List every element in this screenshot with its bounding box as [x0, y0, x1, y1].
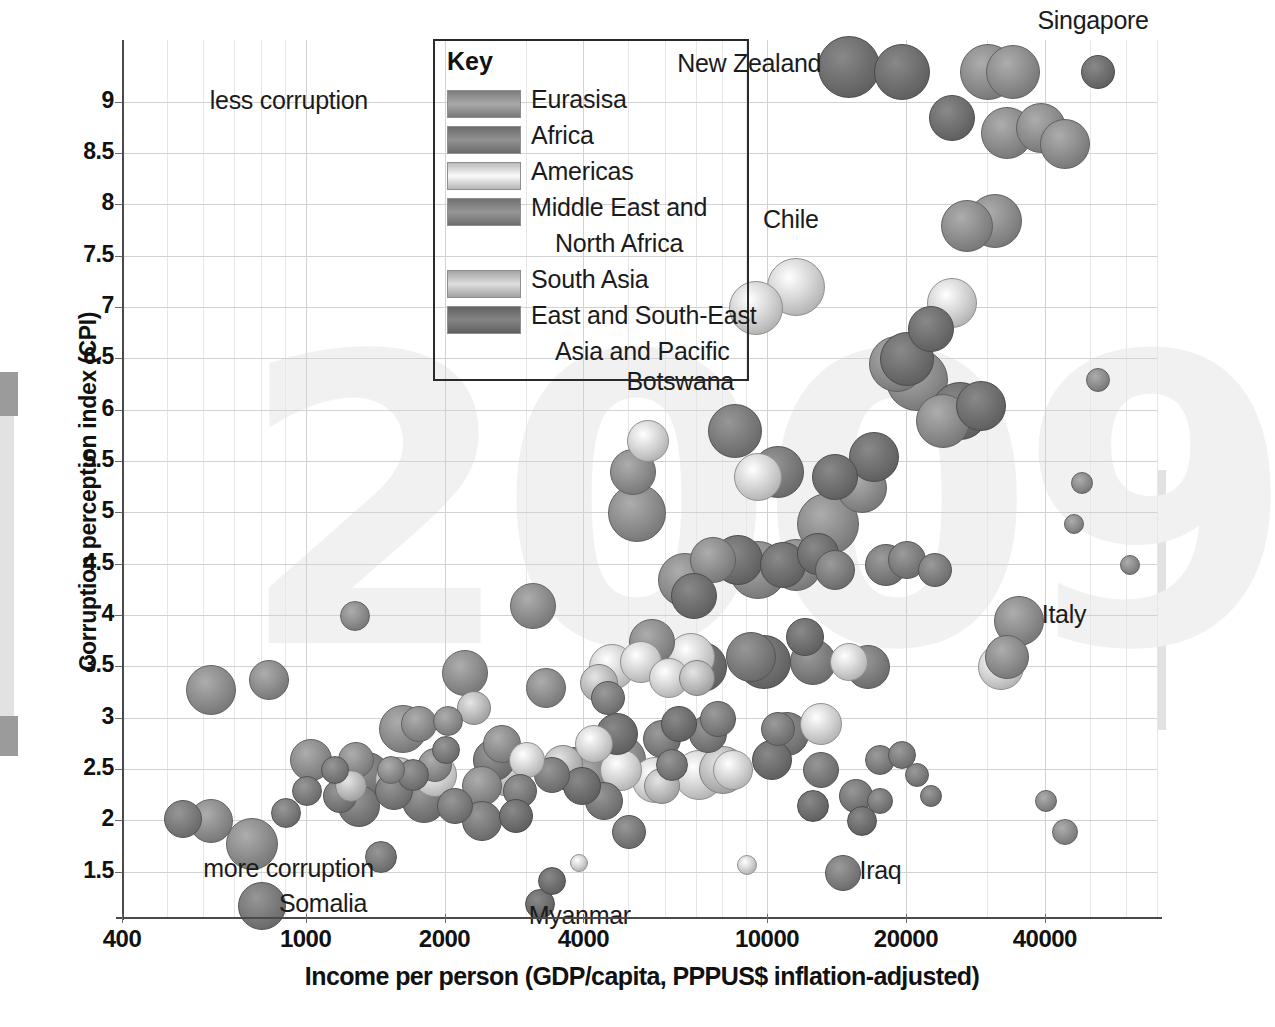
x-tick	[122, 914, 123, 923]
y-tick-label: 1.5	[83, 857, 114, 884]
annotation-more-corruption: more corruption	[203, 854, 374, 883]
x-tick	[767, 914, 768, 923]
y-tick-label: 8	[102, 189, 114, 216]
bubble-americas	[570, 854, 588, 872]
legend-label-continued: North Africa	[555, 229, 683, 258]
bubble-americas	[713, 750, 753, 790]
legend-label: South Asia	[531, 265, 649, 294]
gridline-vertical	[906, 40, 907, 918]
y-tick-label: 2	[102, 805, 114, 832]
gridline-vertical	[987, 40, 988, 918]
bubble-africa	[803, 752, 839, 788]
bubble-middle-east-and-north-africa	[591, 681, 625, 715]
annotation-singapore: Singapore	[1037, 6, 1148, 35]
bubble-americas	[737, 855, 757, 875]
gridline-vertical	[1157, 40, 1158, 918]
x-tick-label: 400	[103, 925, 142, 953]
bubble-middle-east-and-north-africa	[905, 763, 929, 787]
bubble-eurasisa	[1040, 119, 1090, 169]
bubble-africa	[656, 749, 688, 781]
y-tick	[115, 358, 122, 359]
y-tick-label: 5.5	[83, 446, 114, 473]
y-axis-line	[122, 40, 124, 920]
bubble-eurasisa	[377, 756, 405, 784]
bubble-eurasisa	[986, 45, 1040, 99]
bubble-americas	[509, 742, 545, 778]
y-tick-label: 3	[102, 703, 114, 730]
bubble-east-and-south-east-asia-and-pacific	[538, 867, 566, 895]
annotation-somalia: Somalia	[279, 889, 367, 918]
y-tick-label: 3.5	[83, 651, 114, 678]
y-tick-label: 7	[102, 292, 114, 319]
y-tick	[115, 718, 122, 719]
bubble-east-and-south-east-asia-and-pacific	[929, 95, 975, 141]
bubble-eurasisa	[1120, 555, 1140, 575]
gridline-horizontal	[122, 564, 1157, 565]
scan-edge-strip	[0, 416, 14, 716]
gridline-vertical	[234, 40, 235, 918]
legend-label-continued: Asia and Pacific	[555, 337, 730, 366]
bubble-eurasisa	[510, 583, 556, 629]
gridline-horizontal	[122, 718, 1157, 719]
bubble-east-and-south-east-asia-and-pacific	[786, 618, 824, 656]
y-tick	[115, 769, 122, 770]
bubble-east-and-south-east-asia-and-pacific	[874, 44, 930, 100]
y-tick-label: 4	[102, 600, 114, 627]
y-tick-label: 6.5	[83, 343, 114, 370]
y-tick	[115, 204, 122, 205]
annotation-chile: Chile	[763, 205, 818, 234]
x-tick	[306, 914, 307, 923]
legend: Key EurasisaAfricaAmericasMiddle East an…	[433, 39, 749, 381]
x-tick	[583, 914, 584, 923]
legend-label: Eurasisa	[531, 85, 627, 114]
legend-label: Middle East and	[531, 193, 707, 222]
legend-swatch	[447, 306, 521, 334]
bubble-eurasisa	[1035, 790, 1057, 812]
y-tick-label: 9	[102, 87, 114, 114]
legend-swatch	[447, 90, 521, 118]
x-tick-label: 4000	[558, 925, 609, 953]
y-tick	[115, 461, 122, 462]
bubble-eurasisa	[340, 601, 370, 631]
y-tick	[115, 410, 122, 411]
bubble-east-and-south-east-asia-and-pacific	[752, 740, 792, 780]
bubble-africa	[612, 815, 646, 849]
y-tick	[115, 820, 122, 821]
x-tick	[906, 914, 907, 923]
bubble-eurasisa	[1071, 472, 1093, 494]
y-tick	[115, 872, 122, 873]
bubble-east-and-south-east-asia-and-pacific	[661, 706, 697, 742]
legend-swatch	[447, 198, 521, 226]
scan-edge-top	[0, 372, 18, 416]
y-tick-label: 6	[102, 395, 114, 422]
bubble-middle-east-and-north-africa	[920, 785, 942, 807]
y-tick	[115, 307, 122, 308]
bubble-africa	[432, 736, 460, 764]
gridline-vertical	[203, 40, 204, 918]
bubble-eurasisa	[433, 706, 463, 736]
bubble-eurasisa	[442, 650, 488, 696]
bubble-east-and-south-east-asia-and-pacific	[818, 36, 880, 98]
y-tick-label: 4.5	[83, 549, 114, 576]
bubble-east-and-south-east-asia-and-pacific	[797, 790, 829, 822]
annotation-iraq: Iraq	[860, 856, 902, 885]
bubble-south-asia	[679, 660, 715, 696]
y-tick	[115, 666, 122, 667]
legend-swatch	[447, 126, 521, 154]
y-tick	[115, 615, 122, 616]
bubble-africa	[292, 776, 322, 806]
x-axis-line	[116, 917, 1162, 919]
legend-swatch	[447, 270, 521, 298]
bubble-africa	[867, 788, 893, 814]
bubble-east-and-south-east-asia-and-pacific	[956, 381, 1006, 431]
bubble-east-and-south-east-asia-and-pacific	[908, 306, 954, 352]
x-tick-label: 40000	[1013, 925, 1077, 953]
bubble-east-and-south-east-asia-and-pacific	[1081, 55, 1115, 89]
bubble-africa	[271, 798, 301, 828]
bubble-eurasisa	[526, 668, 566, 708]
y-tick-label: 8.5	[83, 138, 114, 165]
bubble-africa	[321, 756, 349, 784]
y-axis-title: Corruption perception index (CPI)	[75, 182, 102, 802]
legend-title: Key	[447, 47, 493, 76]
x-tick	[445, 914, 446, 923]
